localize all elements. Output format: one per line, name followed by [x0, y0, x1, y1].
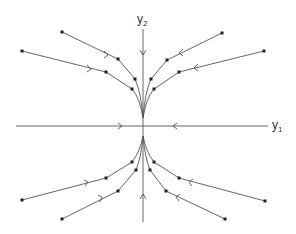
trajectory-upper-left-inner: [62, 32, 143, 118]
trajectory-upper-left-outer: [22, 51, 143, 118]
arrow-icon: [189, 179, 193, 186]
trajectory-lower-right-outer: [143, 136, 265, 201]
phase-portrait: [0, 0, 296, 234]
trajectory-lower-right-inner: [143, 136, 225, 219]
y1-label-subscript: 1: [278, 125, 282, 134]
y2-label-subscript: 2: [143, 19, 147, 28]
trajectory-upper-right-outer: [143, 51, 264, 118]
arrow-icon: [104, 51, 108, 58]
arrow-icon: [87, 65, 91, 72]
y1-axis-label: y1: [272, 119, 282, 134]
trajectory-lower-left-outer: [22, 136, 143, 200]
trajectory-upper-right-inner: [143, 33, 222, 118]
trajectory-lower-left-inner: [62, 136, 143, 219]
y2-axis-label: y2: [137, 13, 147, 28]
